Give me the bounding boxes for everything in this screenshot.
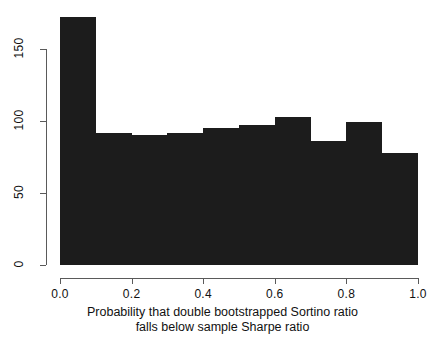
histogram-bar [346, 122, 382, 265]
y-axis-tick-label: 0 [12, 247, 26, 281]
histogram-bar [167, 133, 203, 265]
x-axis-tick [275, 278, 276, 284]
x-axis-tick-label: 0.4 [183, 287, 223, 301]
plot-area: 050100150 0.00.20.40.60.81.0 [0, 0, 445, 343]
histogram-bar [203, 128, 239, 265]
y-axis-tick [40, 121, 46, 122]
histogram-bar [311, 141, 347, 265]
x-axis-tick-label: 0.0 [40, 287, 80, 301]
histogram-bar [60, 17, 96, 265]
y-axis-tick [40, 49, 46, 50]
histogram-bar [239, 125, 275, 265]
histogram-chart: 050100150 0.00.20.40.60.81.0 Probability… [0, 0, 445, 343]
x-axis-tick [346, 278, 347, 284]
x-axis-tick-label: 0.6 [255, 287, 295, 301]
y-axis-tick-label: 150 [12, 31, 26, 65]
y-axis-tick-label: 50 [12, 175, 26, 209]
x-axis-tick [132, 278, 133, 284]
x-axis-label-line-1: Probability that double bootstrapped Sor… [0, 305, 445, 320]
y-axis-line [46, 49, 47, 265]
histogram-bar [275, 117, 311, 265]
x-axis-tick [203, 278, 204, 284]
y-axis-tick-label: 100 [12, 103, 26, 137]
x-axis-label: Probability that double bootstrapped Sor… [0, 305, 445, 335]
x-axis-line [60, 278, 418, 279]
histogram-bar [382, 153, 418, 265]
x-axis-tick [60, 278, 61, 284]
x-axis-tick-label: 1.0 [398, 287, 438, 301]
x-axis-tick [418, 278, 419, 284]
y-axis-tick [40, 193, 46, 194]
histogram-bar [96, 133, 132, 265]
x-axis-tick-label: 0.2 [112, 287, 152, 301]
x-axis-tick-label: 0.8 [326, 287, 366, 301]
y-axis-tick [40, 265, 46, 266]
x-axis-label-line-2: falls below sample Sharpe ratio [0, 320, 445, 335]
histogram-bar [132, 135, 168, 265]
